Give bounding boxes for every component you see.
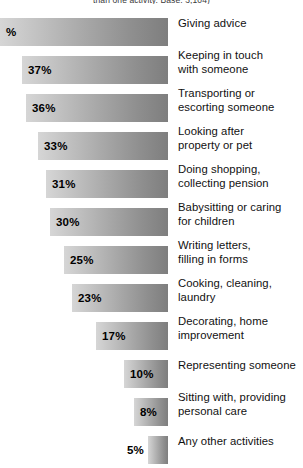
bar [148,436,168,464]
category-label-line: Giving advice [178,17,301,31]
bar-value-label: 5% [0,436,144,464]
category-label-line: personal care [178,405,301,419]
category-label: Looking afterproperty or pet [178,125,301,152]
category-label-line: Writing letters, [178,239,301,253]
bar-row: 37%Keeping in touchwith someone [0,56,303,84]
bar-value-label: 33% [38,132,68,160]
category-label: Babysitting or caringfor children [178,201,301,228]
category-label: Giving advice [178,17,301,31]
bar-row: 17%Decorating, homeimprovement [0,322,303,350]
category-label: Writing letters,filling in forms [178,239,301,266]
bar-row: 8%Sitting with, providingpersonal care [0,398,303,426]
bar-row: 31%Doing shopping,collecting pension [0,170,303,198]
bar-value-label: 23% [72,284,102,312]
bar-value-label: 30% [50,208,80,236]
bar-value-label: % [0,18,16,46]
category-label: Cooking, cleaning,laundry [178,277,301,304]
category-label-line: improvement [178,329,301,343]
bar-row: %Giving advice [0,18,303,46]
bar-row: 23%Cooking, cleaning,laundry [0,284,303,312]
bar-value-label: 37% [22,56,52,84]
category-label: Keeping in touchwith someone [178,49,301,76]
category-label-line: Babysitting or caring [178,201,301,215]
category-label: Doing shopping,collecting pension [178,163,301,190]
category-label-line: filling in forms [178,253,301,267]
bar-value-label: 8% [134,398,157,426]
bar-row: 36%Transporting orescorting someone [0,94,303,122]
bar-value-label: 36% [26,94,56,122]
category-label-line: Transporting or [178,87,301,101]
bar [0,18,168,46]
category-label-line: collecting pension [178,177,301,191]
bar-row: 5%Any other activities [0,436,303,464]
category-label-line: Looking after [178,125,301,139]
bar-value-label: 10% [124,360,154,388]
category-label: Any other activities [178,435,301,449]
category-label: Decorating, homeimprovement [178,315,301,342]
bar-rows-container: %Giving advice37%Keeping in touchwith so… [0,18,303,468]
bar-row: 33%Looking afterproperty or pet [0,132,303,160]
category-label-line: Doing shopping, [178,163,301,177]
bar-row: 25%Writing letters,filling in forms [0,246,303,274]
chart-caption: than one activity. Base: 3,104) [0,0,303,4]
bar-row: 30%Babysitting or caringfor children [0,208,303,236]
bar-value-label: 31% [46,170,76,198]
category-label-line: Cooking, cleaning, [178,277,301,291]
category-label-line: for children [178,215,301,229]
category-label-line: Sitting with, providing [178,391,301,405]
category-label-line: with someone [178,63,301,77]
bar-value-label: 17% [96,322,126,350]
category-label-line: escorting someone [178,101,301,115]
category-label: Sitting with, providingpersonal care [178,391,301,418]
category-label-line: Keeping in touch [178,49,301,63]
category-label-line: Decorating, home [178,315,301,329]
category-label-line: Any other activities [178,435,301,449]
category-label: Representing someone [178,359,301,373]
category-label: Transporting orescorting someone [178,87,301,114]
bar-value-label: 25% [64,246,94,274]
category-label-line: Representing someone [178,359,301,373]
category-label-line: property or pet [178,139,301,153]
bar-row: 10%Representing someone [0,360,303,388]
category-label-line: laundry [178,291,301,305]
